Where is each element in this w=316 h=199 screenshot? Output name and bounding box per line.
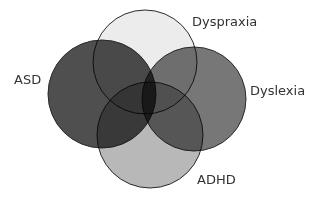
label-dyslexia: Dyslexia xyxy=(250,84,305,97)
label-dyspraxia: Dyspraxia xyxy=(192,15,257,28)
label-adhd: ADHD xyxy=(197,173,236,186)
circle-adhd xyxy=(97,82,203,188)
venn-diagram xyxy=(0,0,316,199)
label-asd: ASD xyxy=(14,73,41,86)
